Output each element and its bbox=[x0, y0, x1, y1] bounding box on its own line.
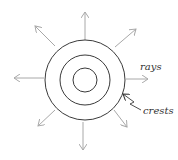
rays-label: rays bbox=[140, 61, 162, 72]
ray-arrow-down-left bbox=[38, 110, 55, 126]
crests-pointer-arrow bbox=[123, 94, 141, 110]
ray-arrow-up-right bbox=[115, 29, 136, 47]
outer-crest-circle bbox=[45, 40, 125, 120]
inner-crest-circle bbox=[73, 68, 97, 92]
wave-diagram: rays crests bbox=[0, 0, 178, 160]
ray-arrow-up-left bbox=[35, 26, 55, 46]
rays-group bbox=[14, 12, 148, 150]
middle-crest-circle bbox=[60, 55, 110, 105]
crests-label: crests bbox=[143, 105, 174, 116]
crests-group bbox=[45, 40, 125, 120]
ray-arrow-down-right bbox=[114, 110, 127, 127]
